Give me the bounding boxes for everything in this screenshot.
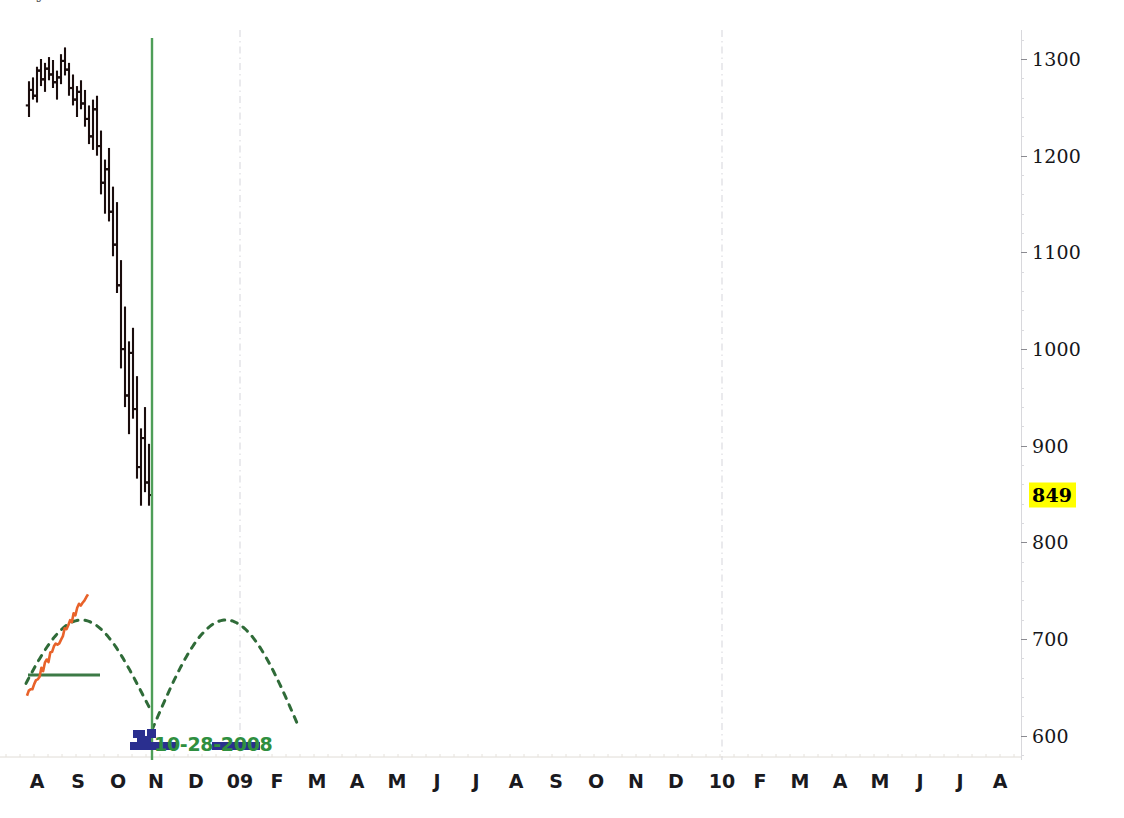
price-minor-tick: [1021, 175, 1024, 176]
price-minor-tick: [1021, 407, 1024, 408]
month-axis-label: M: [791, 770, 810, 792]
price-axis-label: 800: [1032, 531, 1069, 553]
price-minor-tick: [1021, 310, 1024, 311]
month-axis: ASOND09FMAMJJASOND10FMAMJJA: [0, 760, 1021, 818]
price-axis-label: 600: [1032, 725, 1069, 747]
price-minor-tick: [1021, 291, 1024, 292]
month-axis-label: N: [148, 770, 164, 792]
price-minor-tick: [1021, 716, 1024, 717]
month-axis-label: 09: [227, 770, 253, 792]
month-axis-label: O: [110, 770, 126, 792]
price-axis-label: 1000: [1032, 338, 1081, 360]
month-axis-label: M: [308, 770, 327, 792]
price-minor-tick: [1021, 523, 1024, 524]
month-axis-label: M: [388, 770, 407, 792]
chart-canvas: [0, 30, 1021, 760]
price-minor-tick: [1021, 272, 1024, 273]
month-axis-label: N: [628, 770, 644, 792]
clipped-header-text: Cycle Chart and Forecast: [24, 0, 444, 7]
month-axis-label: A: [993, 770, 1008, 792]
month-axis-label: A: [833, 770, 848, 792]
month-axis-label: J: [472, 770, 479, 792]
price-minor-tick: [1021, 697, 1024, 698]
price-axis-label: 1300: [1032, 48, 1081, 70]
month-axis-label: A: [30, 770, 45, 792]
price-axis-label: 900: [1032, 435, 1069, 457]
month-axis-label: F: [271, 770, 284, 792]
price-minor-tick: [1021, 562, 1024, 563]
price-minor-tick: [1021, 136, 1024, 137]
price-tick: [1021, 542, 1027, 543]
year-gridlines: [240, 30, 722, 760]
month-axis-label: D: [188, 770, 204, 792]
price-tick: [1021, 59, 1027, 60]
month-axis-label: J: [956, 770, 963, 792]
price-minor-tick: [1021, 233, 1024, 234]
month-axis-label: M: [871, 770, 890, 792]
price-minor-tick: [1021, 484, 1024, 485]
price-tick: [1021, 349, 1027, 350]
price-axis-spine: [1021, 30, 1022, 760]
price-minor-tick: [1021, 658, 1024, 659]
price-minor-tick: [1021, 194, 1024, 195]
month-axis-label: J: [433, 770, 440, 792]
price-tick: [1021, 446, 1027, 447]
month-axis-label: O: [588, 770, 604, 792]
month-axis-label: F: [754, 770, 767, 792]
price-axis-label: 1100: [1032, 241, 1081, 263]
price-minor-tick: [1021, 78, 1024, 79]
month-axis-label: A: [509, 770, 524, 792]
price-minor-tick: [1021, 368, 1024, 369]
price-minor-tick: [1021, 117, 1024, 118]
price-axis-label: 1200: [1032, 145, 1081, 167]
price-minor-tick: [1021, 40, 1024, 41]
price-tick: [1021, 736, 1027, 737]
price-minor-tick: [1021, 330, 1024, 331]
month-axis-label: D: [668, 770, 684, 792]
current-price-badge: 849: [1029, 483, 1076, 508]
price-minor-tick: [1021, 620, 1024, 621]
month-axis-label: J: [916, 770, 923, 792]
price-bars: [26, 47, 152, 505]
price-minor-tick: [1021, 678, 1024, 679]
price-minor-tick: [1021, 388, 1024, 389]
price-tick: [1021, 639, 1027, 640]
price-minor-tick: [1021, 214, 1024, 215]
price-axis: 6007008009001000110012001300849: [1021, 30, 1124, 760]
price-tick: [1021, 252, 1027, 253]
cursor-date-label: 10-28-2008: [154, 733, 273, 755]
chart-plot-area[interactable]: [0, 30, 1021, 760]
price-minor-tick: [1021, 98, 1024, 99]
price-minor-tick: [1021, 600, 1024, 601]
price-minor-tick: [1021, 426, 1024, 427]
month-axis-label: A: [350, 770, 365, 792]
month-axis-label: S: [549, 770, 563, 792]
price-minor-tick: [1021, 755, 1024, 756]
price-axis-label: 700: [1032, 628, 1069, 650]
chart-screen: Cycle Chart and Forecast 10-28-2008 6007…: [0, 0, 1124, 818]
price-minor-tick: [1021, 581, 1024, 582]
price-minor-tick: [1021, 465, 1024, 466]
month-axis-label: S: [71, 770, 85, 792]
price-tick: [1021, 156, 1027, 157]
price-minor-tick: [1021, 504, 1024, 505]
momentum-trace: [27, 594, 88, 695]
month-axis-label: 10: [709, 770, 735, 792]
